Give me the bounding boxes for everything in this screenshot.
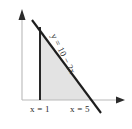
- math-figure: x = 1 x = 5 y = 10 − 2x: [0, 0, 132, 129]
- y-axis-arrow-icon: [19, 9, 26, 20]
- label-x-equals-1: x = 1: [30, 104, 50, 114]
- x-axis-arrow-icon: [116, 97, 125, 104]
- label-x-equals-5: x = 5: [70, 104, 90, 114]
